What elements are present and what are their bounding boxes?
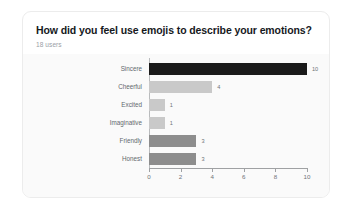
tick-mark [244, 169, 245, 172]
bar-value-label: 3 [201, 154, 204, 164]
bar[interactable] [149, 153, 196, 165]
bar-value-label: 3 [201, 136, 204, 146]
bar-value-label: 4 [217, 82, 220, 92]
chart-card: How did you feel use emojis to describe … [22, 11, 330, 198]
tick-mark [181, 169, 182, 172]
category-label: Cheerful [118, 82, 142, 92]
tick-mark [212, 169, 213, 172]
bar-row[interactable]: Sincere10 [149, 60, 307, 78]
tick-mark [307, 169, 308, 172]
respondent-count: 18 users [36, 41, 329, 49]
plot-area: Sincere10Cheerful4Excited1Imaginative1Fr… [23, 54, 329, 198]
tick-label: 4 [210, 173, 213, 181]
bar-row[interactable]: Imaginative1 [149, 114, 307, 132]
bar-row[interactable]: Friendly3 [149, 132, 307, 150]
category-label: Excited [121, 100, 142, 110]
tick-label: 0 [147, 173, 150, 181]
tick-label: 6 [242, 173, 245, 181]
category-label: Friendly [120, 136, 142, 146]
bar-row[interactable]: Honest3 [149, 150, 307, 168]
tick-label: 10 [304, 173, 311, 181]
tick-label: 2 [179, 173, 182, 181]
tick-mark [275, 169, 276, 172]
bar-row[interactable]: Cheerful4 [149, 78, 307, 96]
bar[interactable] [149, 99, 165, 111]
category-label: Sincere [121, 64, 142, 74]
x-axis-ticks: 0246810 [149, 169, 307, 185]
bar-value-label: 1 [170, 100, 173, 110]
bar-value-label: 1 [170, 118, 173, 128]
bar[interactable] [149, 63, 307, 75]
bar[interactable] [149, 117, 165, 129]
category-label: Honest [122, 154, 142, 164]
card-header: How did you feel use emojis to describe … [23, 12, 329, 54]
bar[interactable] [149, 135, 196, 147]
bar-row[interactable]: Excited1 [149, 96, 307, 114]
tick-label: 8 [274, 173, 277, 181]
page-title: How did you feel use emojis to describe … [36, 24, 329, 36]
bar[interactable] [149, 81, 212, 93]
bar-value-label: 10 [312, 64, 318, 74]
category-label: Imaginative [110, 118, 142, 128]
tick-mark [149, 169, 150, 172]
bars-container: Sincere10Cheerful4Excited1Imaginative1Fr… [149, 60, 307, 168]
